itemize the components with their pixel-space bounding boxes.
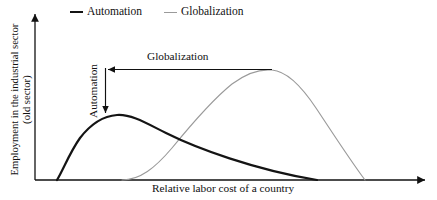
chart-canvas [0, 0, 437, 200]
globalization-annotation-label: Globalization [147, 50, 209, 62]
automation-annotation-label: Automation [87, 60, 99, 122]
legend-item-automation: Automation [70, 6, 142, 18]
y-axis-title-line1: Employment in the industrial sector [9, 10, 21, 190]
chart-legend: Automation Globalization [70, 4, 244, 20]
automation-curve [57, 115, 317, 180]
legend-swatch-globalization-icon [164, 12, 177, 13]
y-axis-title-line2: (old sector) [21, 10, 33, 190]
legend-label-automation: Automation [87, 6, 142, 18]
economics-curve-chart: Automation Globalization Employment in t… [0, 0, 437, 200]
legend-item-globalization: Globalization [164, 6, 244, 18]
y-axis-title: Employment in the industrial sector (old… [9, 10, 32, 190]
x-axis-title: Relative labor cost of a country [152, 182, 294, 194]
legend-label-globalization: Globalization [181, 6, 244, 18]
legend-swatch-automation-icon [70, 11, 83, 13]
